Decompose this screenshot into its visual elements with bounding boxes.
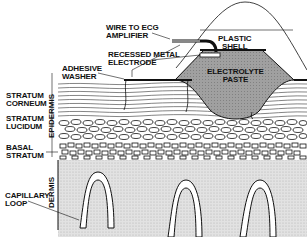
label-capillary-loop: CAPILLARYLOOP bbox=[5, 192, 50, 208]
label-epidermis: EPIDERMIS bbox=[47, 94, 56, 138]
label-electrolyte-paste: ELECTROLYTEPASTE bbox=[207, 68, 264, 84]
label-line: LUCIDUM bbox=[6, 122, 42, 131]
label-dermis: DERMIS bbox=[47, 177, 56, 208]
recessed-metal-electrode bbox=[200, 53, 220, 57]
label-stratum-corneum: STRATUMCORNEUM bbox=[6, 92, 47, 108]
label-line: CORNEUM bbox=[6, 99, 47, 108]
label-recessed-electrode: RECESSED METALELECTRODE bbox=[108, 51, 180, 67]
label-line: WASHER bbox=[62, 72, 97, 81]
stratum-lucidum-layer bbox=[59, 120, 307, 140]
label-plastic-shell: PLASTICSHELL bbox=[218, 35, 252, 51]
label-adhesive-washer: ADHESIVEWASHER bbox=[62, 65, 102, 81]
label-wire-to-ecg: WIRE TO ECGAMPLIFIER bbox=[106, 24, 159, 40]
basal-stratum-layer bbox=[58, 142, 307, 160]
label-line: ELECTRODE bbox=[108, 58, 156, 67]
label-line: AMPLIFIER bbox=[106, 31, 148, 40]
label-line: SHELL bbox=[222, 42, 248, 51]
label-line: STRATUM bbox=[6, 151, 44, 160]
label-basal-stratum: BASALSTRATUM bbox=[6, 144, 44, 160]
label-line: LOOP bbox=[5, 199, 27, 208]
label-line: PASTE bbox=[223, 75, 249, 84]
label-stratum-lucidum: STRATUMLUCIDUM bbox=[6, 115, 44, 131]
